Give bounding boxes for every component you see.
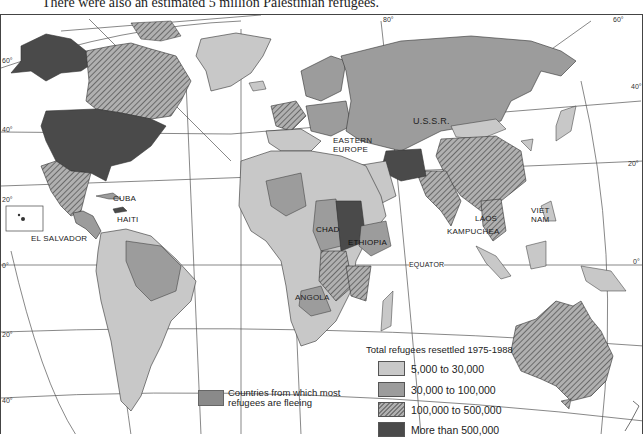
lat-label-right-80: 80° xyxy=(383,16,394,23)
label-laos: LAOS xyxy=(475,214,497,223)
legend-item-light: 5,000 to 30,000 xyxy=(378,361,484,376)
legend-label-dark: More than 500,000 xyxy=(411,424,499,436)
lat-label-left-0: 0° xyxy=(2,262,9,269)
lat-label-left-40: 40° xyxy=(2,126,13,133)
legend-title: Total refugees resettled 1975-1988 xyxy=(366,344,513,355)
lat-label-left-s20: 20° xyxy=(2,331,13,338)
world-map: U.S.S.R. EASTERN EUROPE CUBA HAITI EL SA… xyxy=(0,14,643,434)
label-eastern-europe-1: EASTERN xyxy=(333,136,372,145)
map-caption: There were also an estimated 5 million P… xyxy=(42,0,379,11)
legend-item-medium: 30,000 to 100,000 xyxy=(378,382,496,397)
legend-fleeing-label: Countries from which most refugees are f… xyxy=(228,388,358,408)
label-ethiopia: ETHIOPIA xyxy=(348,238,387,247)
australia-region xyxy=(511,301,613,401)
lat-label-left-20: 20° xyxy=(2,196,13,203)
label-kampuchea: KAMPUCHEA xyxy=(447,227,499,236)
legend-item-hatched: 100,000 to 500,000 xyxy=(378,402,502,417)
legend-label-hatched: 100,000 to 500,000 xyxy=(411,404,502,416)
label-chad: CHAD xyxy=(316,225,339,234)
lat-label-right-60: 60° xyxy=(613,16,624,23)
label-eastern-europe-2: EUROPE xyxy=(333,145,368,154)
africa xyxy=(239,151,393,346)
lat-label-right-0: 0° xyxy=(633,258,640,265)
legend-swatch-medium xyxy=(378,382,405,397)
north-america xyxy=(6,21,271,239)
label-haiti: HAITI xyxy=(117,215,138,224)
lat-label-right-20: 20° xyxy=(628,160,639,167)
south-america xyxy=(96,229,196,411)
label-viet-nam-2: NAM xyxy=(531,215,549,224)
legend-label-light: 5,000 to 30,000 xyxy=(411,363,484,375)
legend-swatch-hatched xyxy=(378,402,405,417)
lat-label-left-s40: 40° xyxy=(2,397,13,404)
label-ussr: U.S.S.R. xyxy=(413,117,450,126)
label-angola: ANGOLA xyxy=(295,293,330,302)
legend-fleeing-swatch xyxy=(198,390,224,406)
lat-label-right-40: 40° xyxy=(631,83,642,90)
legend-fleeing: Countries from which most refugees are f… xyxy=(198,388,358,408)
legend-swatch-dark xyxy=(378,422,405,437)
legend-swatch-light xyxy=(378,361,405,376)
label-viet-nam-1: VIET xyxy=(531,206,550,215)
label-cuba: CUBA xyxy=(113,194,136,203)
legend-item-dark: More than 500,000 xyxy=(378,422,499,437)
lat-label-left-60: 60° xyxy=(2,57,13,64)
legend-label-medium: 30,000 to 100,000 xyxy=(411,384,496,396)
label-el-salvador: EL SALVADOR xyxy=(31,234,87,243)
label-equator: EQUATOR xyxy=(409,260,444,269)
